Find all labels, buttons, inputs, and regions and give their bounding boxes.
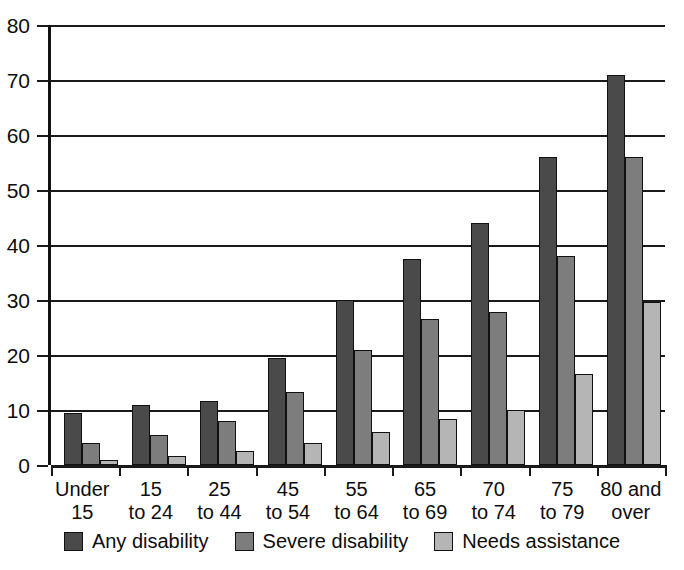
y-tick — [37, 25, 48, 27]
legend-swatch-icon — [235, 532, 254, 551]
x-tick-label-line: 80 and — [597, 478, 666, 501]
y-tick-label: 80 — [7, 15, 30, 36]
x-tick-label-line: to 24 — [117, 501, 186, 524]
x-tick-label: 25to 44 — [185, 478, 254, 524]
legend-swatch-icon — [64, 532, 83, 551]
x-tick-label-line: Under — [48, 478, 117, 501]
plot-area-wrapper: 01020304050607080 — [48, 25, 665, 465]
legend-item[interactable]: Any disability — [64, 531, 209, 551]
x-tick-label-line: 15 — [48, 501, 117, 524]
bar-group — [258, 25, 326, 465]
bar[interactable] — [471, 223, 489, 465]
x-tick-label: 80 andover — [597, 478, 666, 524]
y-tick — [37, 190, 48, 192]
bar[interactable] — [354, 350, 372, 466]
bar[interactable] — [100, 460, 118, 466]
x-tick-label: Under15 — [48, 478, 117, 524]
y-tick — [37, 355, 48, 357]
x-tick-label-line: 55 — [322, 478, 391, 501]
x-tick — [187, 465, 189, 476]
bar[interactable] — [150, 435, 168, 465]
bar-group — [529, 25, 597, 465]
y-tick — [37, 80, 48, 82]
bar[interactable] — [539, 157, 557, 465]
x-tick — [119, 465, 121, 476]
x-tick-label-line: 15 — [117, 478, 186, 501]
bar-group — [393, 25, 461, 465]
x-tick-label-line: to 44 — [185, 501, 254, 524]
x-tick-label-line: 45 — [254, 478, 323, 501]
y-tick — [37, 410, 48, 412]
bar[interactable] — [218, 421, 236, 465]
bar[interactable] — [268, 358, 286, 465]
x-tick-label: 15to 24 — [117, 478, 186, 524]
bar[interactable] — [372, 432, 390, 465]
x-tick — [51, 465, 53, 476]
bar[interactable] — [168, 456, 186, 465]
bar-group — [190, 25, 258, 465]
y-tick — [37, 245, 48, 247]
y-tick-label: 0 — [18, 455, 30, 476]
bar[interactable] — [625, 157, 643, 465]
x-tick-label-line: 65 — [391, 478, 460, 501]
x-tick — [392, 465, 394, 476]
y-tick-label: 50 — [7, 180, 30, 201]
x-tick — [460, 465, 462, 476]
plot-area — [48, 25, 665, 465]
legend-item[interactable]: Needs assistance — [434, 531, 620, 551]
x-tick-label-line: 70 — [459, 478, 528, 501]
x-tick-label-line: 25 — [185, 478, 254, 501]
bar[interactable] — [557, 256, 575, 465]
y-tick — [37, 135, 48, 137]
legend-label: Needs assistance — [462, 531, 620, 551]
bar[interactable] — [200, 401, 218, 465]
bar[interactable] — [507, 410, 525, 465]
x-tick-label-line: to 74 — [459, 501, 528, 524]
bar[interactable] — [132, 405, 150, 466]
bar[interactable] — [64, 413, 82, 465]
y-tick-label: 30 — [7, 290, 30, 311]
bar-group — [326, 25, 394, 465]
bar[interactable] — [575, 374, 593, 465]
bar[interactable] — [643, 302, 661, 465]
bar[interactable] — [489, 312, 507, 465]
y-tick-label: 10 — [7, 400, 30, 421]
y-tick-label: 40 — [7, 235, 30, 256]
x-tick — [597, 465, 599, 476]
bar-group — [54, 25, 122, 465]
gridline — [51, 465, 665, 468]
y-tick — [37, 300, 48, 302]
x-tick-label-line: to 79 — [528, 501, 597, 524]
x-tick-label: 75to 79 — [528, 478, 597, 524]
legend-label: Any disability — [92, 531, 209, 551]
x-tick-label-line: 75 — [528, 478, 597, 501]
x-tick — [529, 465, 531, 476]
x-tick — [324, 465, 326, 476]
bar[interactable] — [439, 419, 457, 465]
bar-group — [597, 25, 665, 465]
bar-group — [461, 25, 529, 465]
x-tick-label: 70to 74 — [459, 478, 528, 524]
bar[interactable] — [236, 451, 254, 465]
x-tick-label: 45to 54 — [254, 478, 323, 524]
x-tick-label-line: to 54 — [254, 501, 323, 524]
chart-legend: Any disabilitySevere disabilityNeeds ass… — [0, 531, 684, 551]
y-tick-label: 70 — [7, 70, 30, 91]
bar[interactable] — [421, 319, 439, 465]
bar[interactable] — [82, 443, 100, 465]
bar[interactable] — [304, 443, 322, 465]
x-tick-label-line: over — [597, 501, 666, 524]
y-tick — [37, 465, 48, 467]
x-tick-label-line: to 69 — [391, 501, 460, 524]
legend-swatch-icon — [434, 532, 453, 551]
bar[interactable] — [336, 300, 354, 465]
bar[interactable] — [403, 259, 421, 465]
x-tick — [665, 465, 667, 476]
bar[interactable] — [286, 392, 304, 465]
legend-item[interactable]: Severe disability — [235, 531, 409, 551]
legend-label: Severe disability — [263, 531, 409, 551]
x-tick-label-line: to 64 — [322, 501, 391, 524]
bar[interactable] — [607, 75, 625, 466]
x-axis-labels: Under1515to 2425to 4445to 5455to 6465to … — [48, 478, 665, 524]
x-tick-label: 55to 64 — [322, 478, 391, 524]
